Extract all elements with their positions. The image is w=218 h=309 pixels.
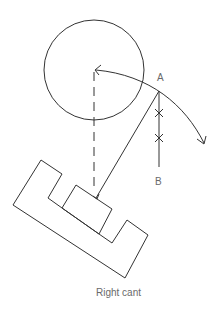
- right-cant-diagram: A B Right cant: [0, 0, 218, 309]
- stepped-block: [13, 160, 148, 278]
- label-point-a: A: [157, 72, 164, 83]
- inner-block: [62, 185, 112, 234]
- caption: Right cant: [96, 287, 141, 298]
- label-point-b: B: [155, 176, 162, 187]
